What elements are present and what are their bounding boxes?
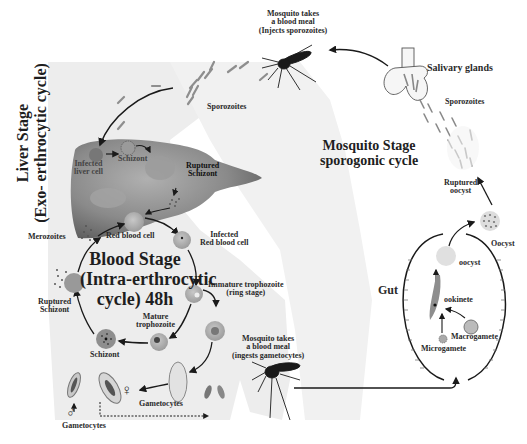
ruptured-schizont-blood-label: Ruptured Schizont bbox=[38, 298, 71, 315]
infected-liver-cell-label: Infected liver cell bbox=[74, 160, 103, 177]
sporozoites-human-label: Sporozoites bbox=[207, 103, 246, 111]
red-blood-cell bbox=[124, 212, 144, 232]
ookinete-shape bbox=[430, 275, 441, 320]
mosquito-inject-label: Mosquito takes a blood meal (Injects spo… bbox=[243, 10, 343, 35]
blood-schizont-label: Schizont bbox=[90, 351, 119, 359]
infected-rbc-label: Infected Red blood cell bbox=[200, 231, 248, 248]
male-symbol: ♂ bbox=[66, 406, 77, 421]
microgamete-shape bbox=[439, 335, 447, 343]
liver-stage-title: Liver Stage (Exo- erthrocytic cycle) bbox=[14, 58, 51, 228]
mosquito-stage-title: Mosquito Stage sporogonic cycle bbox=[320, 139, 418, 168]
oocyst-outside bbox=[480, 211, 500, 231]
ruptured-oocyst-shape bbox=[447, 126, 479, 170]
arrow-oocyst-to-ruptured bbox=[478, 178, 492, 205]
oocyst-in-gut-label: oocyst bbox=[459, 259, 480, 267]
blood-stage-title: Blood Stage (Intra-erthrocytic cycle) 48… bbox=[80, 250, 190, 309]
ruptured-schizont-liver-label: Ruptured Schizont bbox=[186, 162, 219, 179]
gut-label: Gut bbox=[378, 284, 398, 297]
salivary-glands-illustration bbox=[384, 48, 427, 100]
liver-schizont bbox=[121, 141, 135, 155]
gametocytes-left-label: Gametocytes bbox=[62, 422, 106, 430]
oocyst-outside-label: Oocyst bbox=[491, 240, 515, 248]
infected-red-blood-cell bbox=[173, 231, 191, 249]
sporozoites-mosquito-label: Sporozoites bbox=[445, 98, 484, 106]
red-blood-cell-label: Red blood cell bbox=[106, 232, 154, 240]
arrow-glands-to-mosquito bbox=[330, 50, 388, 66]
macrogamete-label: Macrogamete bbox=[451, 333, 498, 341]
oocyst-in-gut bbox=[436, 246, 456, 266]
ookinete-label: ookinete bbox=[444, 296, 473, 304]
malaria-lifecycle-diagram: Liver Stage (Exo- erthrocytic cycle) Mos… bbox=[0, 0, 527, 444]
mature-trophozoite-label: Mature trophozoite bbox=[136, 313, 175, 330]
female-symbol: ♀ bbox=[121, 383, 132, 399]
gametocyte-oval bbox=[169, 362, 187, 402]
gametocytes-mid-label: Gametocytes bbox=[139, 400, 183, 408]
salivary-glands-label: Salivary glands bbox=[427, 63, 493, 74]
microgamete-label: Microgamete bbox=[421, 345, 466, 353]
mosquito-ingest-label: Mosquito takes a blood meal (ingests gam… bbox=[232, 335, 304, 360]
immature-trophozoite-label: Immature trophozoite (ring stage) bbox=[208, 281, 283, 298]
ruptured-oocyst-label: Ruptured oocyst bbox=[444, 179, 477, 196]
merozoites-label: Merozoites bbox=[28, 233, 66, 241]
liver-schizont-label: Schizont bbox=[118, 155, 147, 163]
